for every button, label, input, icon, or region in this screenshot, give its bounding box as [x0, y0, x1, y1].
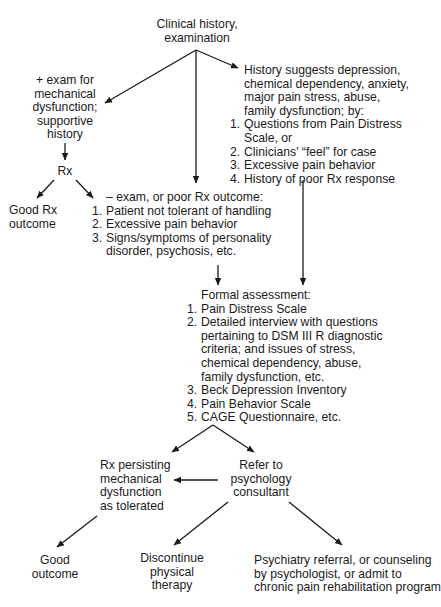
node-line: Refer to [222, 459, 300, 473]
item-number: 2. [187, 316, 197, 330]
node-negative-exam: – exam, or poor Rx outcome: 1. Patient n… [92, 191, 271, 259]
node-line: Patient not tolerant of handling [106, 205, 271, 219]
item-number: 4. [230, 173, 240, 187]
formal-assessment-list: 1. Pain Distress Scale 2. Detailed inter… [187, 303, 383, 425]
node-line: supportive [20, 115, 110, 129]
item-number: 1. [187, 303, 197, 317]
node-line: Excessive pain behavior [106, 218, 271, 232]
node-line: Discontinue [136, 552, 208, 566]
node-line: chemical dependency, anxiety, [244, 78, 409, 92]
list-item: 2. Excessive pain behavior [92, 218, 271, 232]
node-line: Clinical history, [150, 18, 244, 32]
node-good-outcome: Good outcome [28, 554, 82, 581]
arrow-refer-to-discontinue [174, 502, 228, 545]
arrow-rx-persisting-to-good-outcome [57, 516, 97, 547]
node-line: by psychologist, or admit to [254, 568, 441, 582]
node-line: History of poor Rx response [244, 173, 409, 187]
list-item: 1. Questions from Pain Distress Scale, o… [230, 118, 409, 145]
node-line: Pain Behavior Scale [201, 398, 383, 412]
node-discontinue-physical-therapy: Discontinue physical therapy [136, 552, 208, 593]
arrow-rx-to-negative-exam [76, 180, 93, 198]
node-line: consultant [222, 486, 300, 500]
item-number: 3. [230, 159, 240, 173]
node-refer-psychology: Refer to psychology consultant [222, 459, 300, 500]
node-rx-persisting: Rx persisting mechanical dysfunction as … [100, 459, 170, 513]
node-line: outcome [28, 568, 82, 582]
item-number: 5. [187, 411, 197, 425]
node-line: psychology [222, 473, 300, 487]
node-clinical-history: Clinical history, examination [150, 18, 244, 45]
node-line: CAGE Questionnaire, etc. [201, 411, 383, 425]
node-good-rx-outcome: Good Rx outcome [9, 204, 57, 231]
node-line: mechanical [100, 473, 170, 487]
list-item: 1. Pain Distress Scale [187, 303, 383, 317]
node-line: therapy [136, 579, 208, 593]
node-formal-assessment: Formal assessment: 1. Pain Distress Scal… [187, 289, 383, 425]
list-item: 4. Pain Behavior Scale [187, 398, 383, 412]
item-number: 2. [92, 218, 102, 232]
node-line: History suggests depression, [244, 64, 409, 78]
item-number: 4. [187, 398, 197, 412]
node-line: pertaining to DSM III R diagnostic [201, 330, 383, 344]
node-line: Detailed interview with questions [201, 316, 383, 330]
node-line: + exam for [20, 74, 110, 88]
list-item: 2. Clinicians' “feel” for case [230, 146, 409, 160]
node-line: Good [28, 554, 82, 568]
node-line: family dysfunction, etc. [201, 371, 383, 385]
list-item: 4. History of poor Rx response [230, 173, 409, 187]
node-line: criteria; and issues of stress, [201, 343, 383, 357]
node-history-suggests: History suggests depression, chemical de… [230, 64, 409, 186]
item-number: 3. [92, 232, 102, 246]
node-line: family dysfunction; by: [244, 105, 409, 119]
node-line: Excessive pain behavior [244, 159, 409, 173]
item-number: 1. [230, 118, 240, 132]
node-line: Psychiatry referral, or counseling [254, 554, 441, 568]
node-line: Beck Depression Inventory [201, 384, 383, 398]
list-item: 2. Detailed interview with questions per… [187, 316, 383, 384]
node-line: physical [136, 566, 208, 580]
node-line: Good Rx [9, 204, 57, 218]
list-item: 3. Beck Depression Inventory [187, 384, 383, 398]
arrow-rx-to-good-rx-outcome [37, 180, 54, 198]
negative-exam-list: 1. Patient not tolerant of handling 2. E… [92, 205, 271, 259]
node-line: dysfunction; [20, 101, 110, 115]
node-line: chemical dependency, abuse, [201, 357, 383, 371]
list-item: 1. Patient not tolerant of handling [92, 205, 271, 219]
node-line: history [20, 128, 110, 142]
arrow-refer-to-psychiatry [289, 502, 342, 545]
list-item: 3. Signs/symptoms of personality disorde… [92, 232, 271, 259]
node-line: Scale, or [244, 132, 409, 146]
node-line: Rx persisting [100, 459, 170, 473]
arrow-root-to-positive-exam [105, 50, 196, 103]
node-line: Formal assessment: [187, 289, 383, 303]
node-line: chronic pain rehabilitation program [254, 581, 441, 595]
node-line: Clinicians' “feel” for case [244, 146, 409, 160]
node-line: disorder, psychosis, etc. [106, 245, 271, 259]
arrow-formal-to-rx-persisting [172, 425, 213, 452]
node-line: mechanical [20, 88, 110, 102]
node-positive-exam: + exam for mechanical dysfunction; suppo… [20, 74, 110, 142]
node-line: Rx [52, 165, 78, 179]
node-psychiatry-referral: Psychiatry referral, or counseling by ps… [254, 554, 441, 595]
item-number: 1. [92, 205, 102, 219]
node-rx: Rx [52, 165, 78, 179]
node-line: – exam, or poor Rx outcome: [92, 191, 271, 205]
node-line: major pain stress, abuse, [244, 91, 409, 105]
node-line: Signs/symptoms of personality [106, 232, 271, 246]
arrow-formal-to-refer [213, 425, 254, 452]
node-line: examination [150, 32, 244, 46]
history-criteria-list: 1. Questions from Pain Distress Scale, o… [230, 118, 409, 186]
list-item: 5. CAGE Questionnaire, etc. [187, 411, 383, 425]
node-line: dysfunction [100, 486, 170, 500]
node-line: Pain Distress Scale [201, 303, 383, 317]
node-line: Questions from Pain Distress [244, 118, 409, 132]
item-number: 2. [230, 146, 240, 160]
node-line: outcome [9, 218, 57, 232]
list-item: 3. Excessive pain behavior [230, 159, 409, 173]
node-line: as tolerated [100, 500, 170, 514]
item-number: 3. [187, 384, 197, 398]
